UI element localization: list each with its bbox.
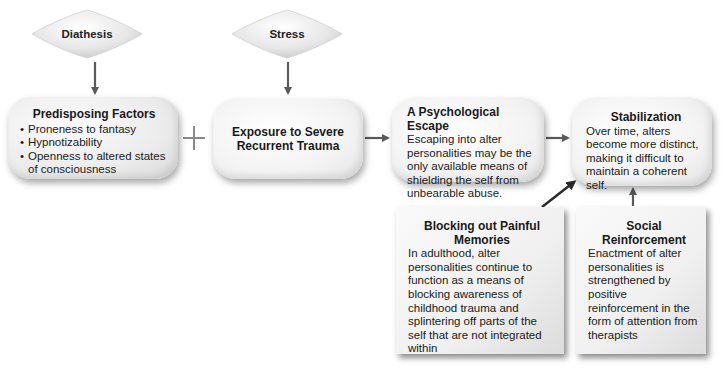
psychological-escape-box: A Psychological Escape Escaping into alt…	[392, 98, 544, 182]
stabilization-title: Stabilization	[586, 111, 706, 125]
psychological-escape-body: Escaping into alter personalities may be…	[407, 133, 536, 201]
social-reinforcement-box: Social Reinforcement Enactment of alter …	[576, 207, 706, 354]
social-reinforcement-body: Enactment of alter personalities is stre…	[588, 247, 700, 342]
social-reinforcement-title: Social Reinforcement	[588, 220, 700, 247]
exposure-trauma-title: Exposure to Severe Recurrent Trauma	[228, 125, 348, 154]
blocking-memories-box: Blocking out Painful Memories In adultho…	[396, 207, 564, 354]
stress-node: Stress	[228, 8, 346, 60]
stabilization-box: Stabilization Over time, alters become m…	[572, 98, 712, 186]
predisposing-factors-box: Predisposing Factors Proneness to fantas…	[8, 97, 178, 179]
exposure-trauma-box: Exposure to Severe Recurrent Trauma	[213, 99, 363, 179]
plus-icon	[183, 126, 205, 150]
blocking-memories-body: In adulthood, alter personalities contin…	[408, 247, 556, 356]
predisposing-factor-item: Hypnotizability	[20, 136, 168, 150]
predisposing-factor-item: Openness to altered states of consciousn…	[20, 150, 168, 177]
diathesis-node: Diathesis	[28, 8, 146, 60]
diathesis-label: Diathesis	[61, 28, 112, 40]
psychological-escape-title: A Psychological Escape	[407, 106, 536, 133]
predisposing-factors-list: Proneness to fantasy Hypnotizability Ope…	[20, 123, 168, 177]
blocking-memories-title: Blocking out Painful Memories	[408, 220, 556, 247]
arrow-blocking-to-stabilization	[542, 182, 574, 207]
predisposing-factors-title: Predisposing Factors	[20, 108, 168, 122]
predisposing-factor-item: Proneness to fantasy	[20, 123, 168, 137]
stabilization-body: Over time, alters become more distinct, …	[586, 125, 706, 193]
stress-label: Stress	[269, 28, 304, 40]
